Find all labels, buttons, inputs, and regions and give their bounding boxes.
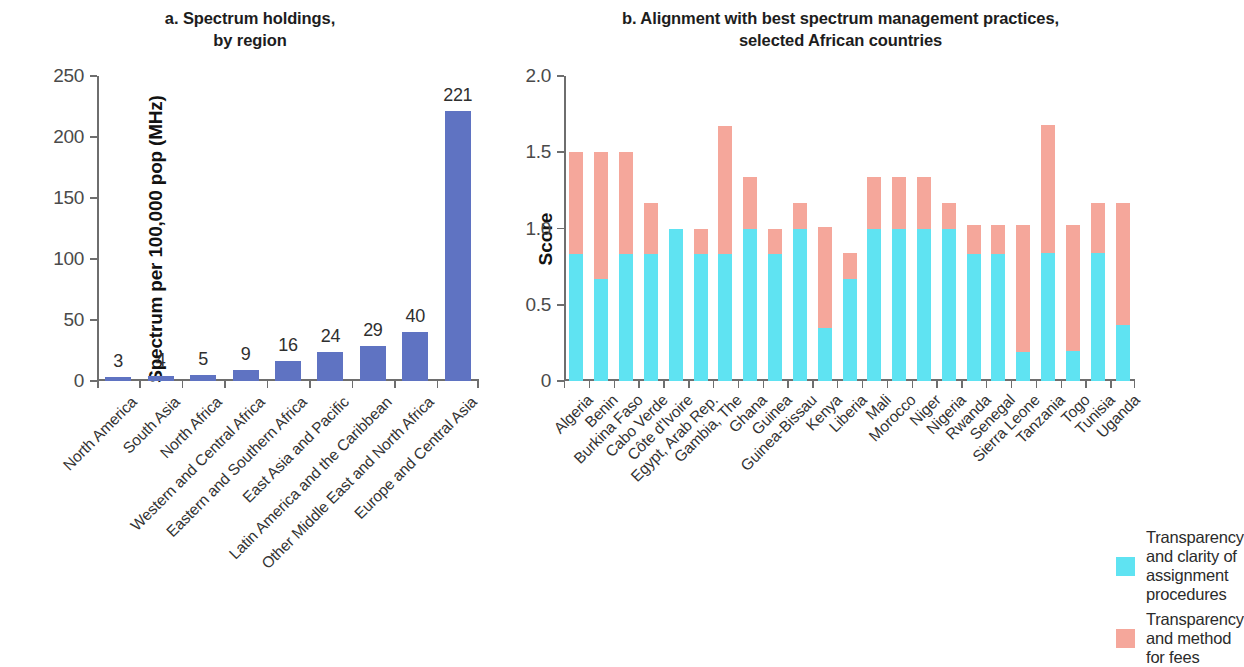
bar-segment-assignment-18[interactable] bbox=[1016, 352, 1030, 381]
bar-segment-fees-8[interactable] bbox=[768, 229, 782, 255]
bar-value-label-4: 16 bbox=[278, 335, 297, 356]
legend-swatch-cyan bbox=[1116, 557, 1135, 576]
panel-b-title: b. Alignment with best spectrum manageme… bbox=[500, 8, 1181, 52]
bar-6[interactable] bbox=[360, 346, 386, 381]
y-tick-3 bbox=[90, 197, 97, 199]
bar-segment-assignment-7[interactable] bbox=[743, 229, 757, 382]
bar-segment-fees-9[interactable] bbox=[793, 203, 807, 229]
bar-segment-assignment-3[interactable] bbox=[644, 254, 658, 381]
bar-segment-assignment-11[interactable] bbox=[843, 279, 857, 381]
x-tick-b-9 bbox=[787, 381, 788, 388]
legend: Transparency and clarity of assignment p… bbox=[1116, 528, 1244, 667]
bar-segment-assignment-16[interactable] bbox=[967, 254, 981, 381]
y-tick-label-4: 200 bbox=[53, 126, 84, 148]
bar-segment-assignment-1[interactable] bbox=[594, 279, 608, 381]
bar-segment-assignment-14[interactable] bbox=[917, 229, 931, 382]
x-tick-b-6 bbox=[713, 381, 714, 388]
y-tick-label-2: 1.0 bbox=[525, 218, 551, 240]
bar-segment-fees-20[interactable] bbox=[1066, 225, 1080, 350]
x-tick-a-7 bbox=[394, 381, 396, 388]
panel-b-title-line1: b. Alignment with best spectrum manageme… bbox=[500, 8, 1181, 30]
x-tick-b-4 bbox=[663, 381, 664, 388]
bar-segment-assignment-17[interactable] bbox=[991, 254, 1005, 381]
bar-segment-assignment-12[interactable] bbox=[867, 229, 881, 382]
bar-segment-fees-19[interactable] bbox=[1041, 125, 1055, 253]
panel-b-title-line2: selected African countries bbox=[500, 30, 1181, 52]
bar-segment-fees-5[interactable] bbox=[694, 229, 708, 255]
bar-segment-fees-0[interactable] bbox=[569, 152, 583, 254]
bar-5[interactable] bbox=[317, 352, 343, 381]
legend-item-method-for-fees[interactable]: Transparency and method for fees bbox=[1116, 610, 1244, 667]
x-tick-a-1 bbox=[139, 381, 141, 388]
bar-segment-assignment-6[interactable] bbox=[718, 254, 732, 381]
panel-a-title-line1: a. Spectrum holdings, bbox=[0, 8, 500, 30]
x-tick-b-7 bbox=[738, 381, 739, 388]
y-tick-label-5: 250 bbox=[53, 65, 84, 87]
bar-segment-assignment-19[interactable] bbox=[1041, 253, 1055, 381]
bar-segment-fees-18[interactable] bbox=[1016, 225, 1030, 352]
bar-segment-fees-22[interactable] bbox=[1116, 203, 1130, 325]
bar-segment-fees-2[interactable] bbox=[619, 152, 633, 254]
bar-1[interactable] bbox=[148, 376, 174, 381]
bar-segment-assignment-22[interactable] bbox=[1116, 325, 1130, 381]
x-tick-b-14 bbox=[912, 381, 913, 388]
x-tick-b-0 bbox=[564, 381, 565, 388]
x-tick-a-8 bbox=[437, 381, 439, 388]
bar-segment-fees-6[interactable] bbox=[718, 126, 732, 254]
x-tick-b-8 bbox=[763, 381, 764, 388]
x-tick-a-end bbox=[477, 381, 479, 388]
y-tick-1 bbox=[90, 319, 97, 321]
y-tick-3 bbox=[557, 151, 564, 153]
bar-segment-assignment-13[interactable] bbox=[892, 229, 906, 382]
bar-segment-fees-15[interactable] bbox=[942, 203, 956, 229]
bar-value-label-5: 24 bbox=[321, 326, 340, 347]
bar-value-label-1: 4 bbox=[156, 350, 166, 371]
x-tick-b-18 bbox=[1011, 381, 1012, 388]
panel-b-alignment: b. Alignment with best spectrum manageme… bbox=[500, 0, 1181, 637]
x-tick-b-22 bbox=[1110, 381, 1111, 388]
bar-segment-fees-17[interactable] bbox=[991, 225, 1005, 254]
bar-3[interactable] bbox=[233, 370, 259, 381]
bar-segment-fees-21[interactable] bbox=[1091, 203, 1105, 253]
bar-8[interactable] bbox=[445, 111, 471, 381]
y-tick-label-3: 1.5 bbox=[525, 141, 551, 163]
x-tick-b-1 bbox=[589, 381, 590, 388]
bar-segment-assignment-0[interactable] bbox=[569, 254, 583, 381]
x-tick-a-4 bbox=[267, 381, 269, 388]
bar-segment-assignment-10[interactable] bbox=[818, 328, 832, 381]
x-tick-b-17 bbox=[986, 381, 987, 388]
bar-segment-fees-14[interactable] bbox=[917, 177, 931, 229]
bar-segment-assignment-2[interactable] bbox=[619, 254, 633, 381]
x-tick-b-19 bbox=[1036, 381, 1037, 388]
x-tick-b-5 bbox=[688, 381, 689, 388]
bar-4[interactable] bbox=[275, 361, 301, 381]
bar-segment-fees-13[interactable] bbox=[892, 177, 906, 229]
y-tick-5 bbox=[90, 75, 97, 77]
bar-segment-assignment-5[interactable] bbox=[694, 254, 708, 381]
bar-0[interactable] bbox=[105, 377, 131, 381]
bar-2[interactable] bbox=[190, 375, 216, 381]
bar-segment-fees-3[interactable] bbox=[644, 203, 658, 255]
x-tick-b-11 bbox=[837, 381, 838, 388]
bar-segment-fees-1[interactable] bbox=[594, 152, 608, 279]
x-tick-a-2 bbox=[182, 381, 184, 388]
x-tick-b-20 bbox=[1061, 381, 1062, 388]
bar-segment-fees-12[interactable] bbox=[867, 177, 881, 229]
bar-segment-assignment-9[interactable] bbox=[793, 229, 807, 382]
bar-segment-fees-11[interactable] bbox=[843, 253, 857, 279]
bar-segment-assignment-4[interactable] bbox=[669, 229, 683, 382]
y-tick-0 bbox=[90, 380, 97, 382]
bar-segment-assignment-8[interactable] bbox=[768, 254, 782, 381]
bar-segment-assignment-15[interactable] bbox=[942, 229, 956, 382]
bar-segment-assignment-20[interactable] bbox=[1066, 351, 1080, 382]
legend-item-assignment-procedures[interactable]: Transparency and clarity of assignment p… bbox=[1116, 528, 1244, 604]
bar-segment-assignment-21[interactable] bbox=[1091, 253, 1105, 381]
x-tick-a-3 bbox=[224, 381, 226, 388]
y-tick-2 bbox=[557, 228, 564, 230]
bar-segment-fees-16[interactable] bbox=[967, 225, 981, 254]
bar-7[interactable] bbox=[402, 332, 428, 381]
panel-a-spectrum-holdings: a. Spectrum holdings, by region Spectrum… bbox=[0, 0, 500, 637]
bar-segment-fees-10[interactable] bbox=[818, 227, 832, 328]
bar-segment-fees-7[interactable] bbox=[743, 177, 757, 229]
x-tick-b-12 bbox=[862, 381, 863, 388]
